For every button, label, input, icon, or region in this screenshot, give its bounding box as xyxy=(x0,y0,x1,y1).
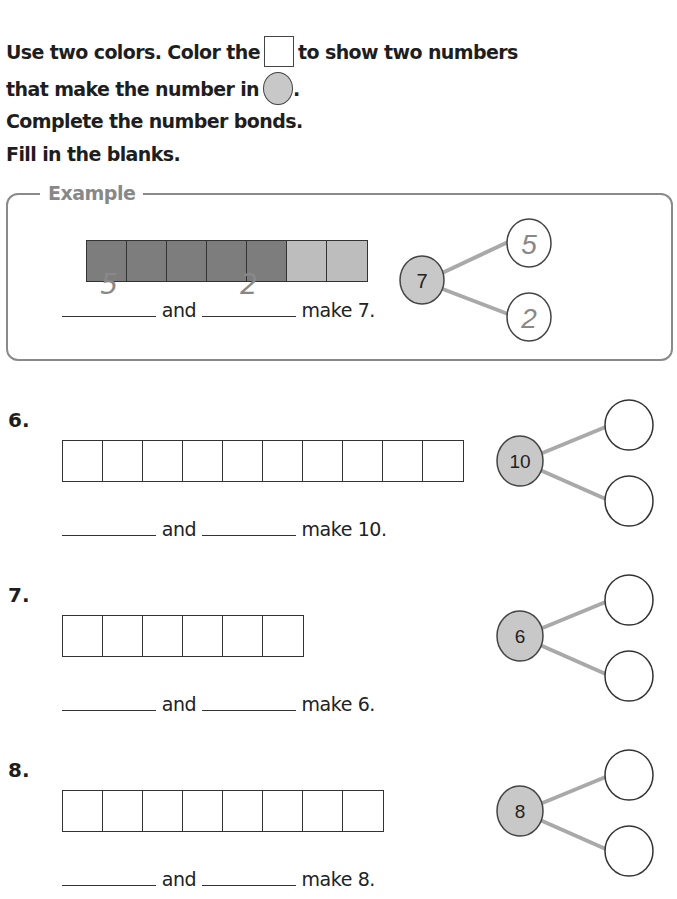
instruction-text: to show two numbers xyxy=(298,41,518,63)
ten-frame xyxy=(62,790,384,832)
part-circle-top[interactable] xyxy=(605,575,653,625)
frame-cell[interactable] xyxy=(63,616,103,656)
number-bond: 10 xyxy=(494,400,664,530)
and-text: and xyxy=(162,868,197,890)
example-answer-2: 2 xyxy=(202,268,296,301)
frame-cell[interactable] xyxy=(143,616,183,656)
question-number: 8. xyxy=(8,758,30,782)
frame-cell[interactable] xyxy=(223,616,263,656)
frame-cell[interactable] xyxy=(103,791,143,831)
connector-line xyxy=(540,776,608,804)
frame-cell[interactable] xyxy=(103,616,143,656)
frame-cell[interactable] xyxy=(303,791,343,831)
part-circle-top[interactable] xyxy=(605,750,653,800)
example-cell xyxy=(327,241,367,281)
part-circle-bottom[interactable] xyxy=(605,651,653,701)
part-circle-bottom[interactable] xyxy=(605,476,653,526)
part-circle-bottom[interactable] xyxy=(605,826,653,876)
whole-value: 8 xyxy=(515,801,526,822)
frame-cell[interactable] xyxy=(63,441,103,481)
and-text: and xyxy=(162,299,197,321)
answer-blank-2[interactable] xyxy=(202,690,296,711)
frame-cell[interactable] xyxy=(183,791,223,831)
and-text: and xyxy=(162,693,197,715)
instruction-text: Use two colors. Color the xyxy=(6,41,260,63)
question-number: 7. xyxy=(8,583,30,607)
example-answer-1: 5 xyxy=(62,268,156,301)
square-icon xyxy=(264,36,294,67)
frame-cell[interactable] xyxy=(263,791,303,831)
frame-cell[interactable] xyxy=(143,791,183,831)
example-sentence: 5 and 2 make 7. xyxy=(62,296,375,321)
connector-line xyxy=(540,820,608,850)
connector-line xyxy=(440,242,508,274)
frame-cell[interactable] xyxy=(223,791,263,831)
connector-line xyxy=(440,288,508,314)
example-number-bond: 7 5 2 xyxy=(396,220,556,330)
whole-value: 10 xyxy=(509,451,530,472)
answer-blank-2[interactable] xyxy=(202,515,296,536)
and-text: and xyxy=(162,518,197,540)
instruction-line-4: Fill in the blanks. xyxy=(6,143,180,165)
frame-cell[interactable] xyxy=(263,441,303,481)
make-text: make 7. xyxy=(301,299,375,321)
question-number: 6. xyxy=(8,408,30,432)
part-circle-top[interactable] xyxy=(605,400,653,450)
frame-cell[interactable] xyxy=(183,616,223,656)
frame-cell[interactable] xyxy=(223,441,263,481)
frame-cell[interactable] xyxy=(143,441,183,481)
make-text: make 10. xyxy=(301,518,386,540)
sentence: and make 10. xyxy=(62,515,387,540)
make-text: make 8. xyxy=(301,868,375,890)
number-bond: 8 xyxy=(494,750,664,880)
whole-value: 7 xyxy=(416,270,427,292)
connector-line xyxy=(540,601,608,629)
part-value-top: 5 xyxy=(521,229,537,260)
frame-cell[interactable] xyxy=(343,441,383,481)
answer-blank-1[interactable] xyxy=(62,690,156,711)
ten-frame xyxy=(62,440,464,482)
instruction-text: . xyxy=(293,78,300,100)
instruction-line-1: Use two colors. Color theto show two num… xyxy=(6,38,518,69)
frame-cell[interactable] xyxy=(383,441,423,481)
frame-cell[interactable] xyxy=(63,791,103,831)
frame-cell[interactable] xyxy=(183,441,223,481)
number-bond: 6 xyxy=(494,575,664,705)
frame-cell[interactable] xyxy=(263,616,303,656)
sentence: and make 8. xyxy=(62,865,375,890)
example-label: Example xyxy=(40,182,143,204)
connector-line xyxy=(540,645,608,675)
example-blank-2: 2 xyxy=(202,296,296,317)
frame-cell[interactable] xyxy=(103,441,143,481)
circle-icon xyxy=(263,72,293,105)
instruction-line-3: Complete the number bonds. xyxy=(6,110,303,132)
whole-value: 6 xyxy=(515,626,526,647)
frame-cell[interactable] xyxy=(303,441,343,481)
instruction-line-2: that make the number in. xyxy=(6,74,300,107)
connector-line xyxy=(540,426,608,454)
answer-blank-2[interactable] xyxy=(202,865,296,886)
sentence: and make 6. xyxy=(62,690,375,715)
part-value-bottom: 2 xyxy=(520,303,537,334)
make-text: make 6. xyxy=(301,693,375,715)
frame-cell[interactable] xyxy=(343,791,383,831)
answer-blank-1[interactable] xyxy=(62,515,156,536)
ten-frame xyxy=(62,615,304,657)
answer-blank-1[interactable] xyxy=(62,865,156,886)
connector-line xyxy=(540,470,608,500)
frame-cell[interactable] xyxy=(423,441,463,481)
instruction-text: that make the number in xyxy=(6,78,259,100)
example-blank-1: 5 xyxy=(62,296,156,317)
